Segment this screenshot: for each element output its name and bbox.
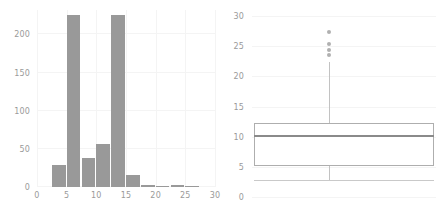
boxplot-box [254,123,434,166]
boxplot-gridline-horizontal [252,107,436,108]
histogram-bar [156,186,170,187]
boxplot-y-tick-label: 10 [222,132,244,141]
boxplot-y-tick-label: 30 [222,12,244,21]
histogram-panel: 050100150200 051015202530 [0,0,222,222]
boxplot-whisker-lower [329,166,330,180]
figure-two-panel: 050100150200 051015202530 051015202530 [0,0,444,222]
boxplot-y-tick-label: 0 [222,193,244,202]
boxplot-y-tick-label: 25 [222,42,244,51]
histogram-y-tick-label: 200 [0,30,30,39]
boxplot-median-line [254,135,434,137]
histogram-bar [52,165,66,187]
boxplot-whisker-cap-lower [254,180,434,181]
boxplot-plot-area [252,10,436,197]
histogram-bar [141,185,155,187]
histogram-y-tick-label: 0 [0,183,30,192]
histogram-bar [111,15,125,187]
histogram-bar [82,158,96,187]
boxplot-outlier-point [327,48,331,52]
histogram-bar [67,15,81,187]
histogram-gridline-vertical [37,10,38,187]
boxplot-whisker-upper [329,62,330,122]
histogram-x-tick-label: 0 [34,191,39,200]
histogram-gridline-vertical [156,10,157,187]
histogram-x-tick-label: 30 [210,191,221,200]
boxplot-gridline-horizontal [252,197,436,198]
histogram-gridline-vertical [126,10,127,187]
boxplot-gridline-horizontal [252,16,436,17]
histogram-bar [96,144,110,187]
boxplot-gridline-horizontal [252,76,436,77]
histogram-x-tick-label: 5 [64,191,69,200]
histogram-y-tick-label: 150 [0,68,30,77]
boxplot-outlier-point [327,53,331,57]
histogram-bar [185,186,199,187]
histogram-y-tick-label: 50 [0,144,30,153]
boxplot-panel: 051015202530 [222,0,444,222]
histogram-x-tick-label: 15 [121,191,132,200]
histogram-x-tick-label: 25 [180,191,191,200]
boxplot-outlier-point [327,42,331,46]
boxplot-gridline-horizontal [252,167,436,168]
boxplot-y-tick-label: 15 [222,102,244,111]
histogram-bar [126,175,140,187]
boxplot-outlier-point [327,30,331,34]
histogram-gridline-vertical [215,10,216,187]
histogram-x-tick-label: 10 [91,191,102,200]
boxplot-y-tick-label: 20 [222,72,244,81]
histogram-plot-area [37,10,215,187]
histogram-bar [171,185,185,187]
boxplot-gridline-horizontal [252,46,436,47]
boxplot-y-tick-label: 5 [222,162,244,171]
histogram-gridline-vertical [185,10,186,187]
histogram-y-tick-label: 100 [0,106,30,115]
histogram-x-tick-label: 20 [150,191,161,200]
